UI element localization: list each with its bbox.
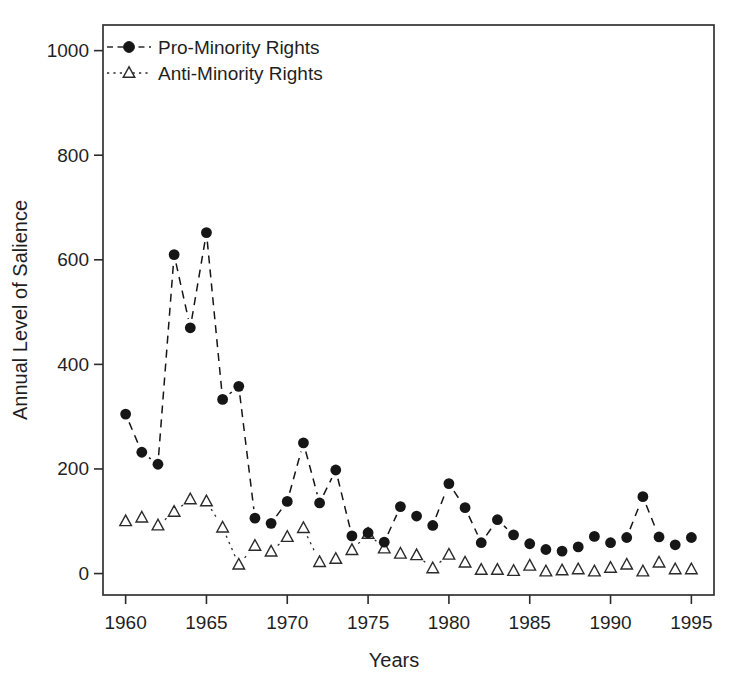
anti-data-point	[637, 565, 649, 576]
anti-data-point	[475, 564, 487, 575]
y-tick-label: 0	[78, 563, 89, 584]
y-tick-label: 400	[57, 354, 89, 375]
pro-data-point	[217, 394, 228, 405]
x-tick-label: 1965	[185, 612, 227, 633]
pro-data-point	[670, 539, 681, 550]
pro-data-point	[379, 537, 390, 548]
pro-data-point	[508, 529, 519, 540]
anti-data-point	[184, 493, 196, 504]
anti-data-point	[540, 565, 552, 576]
pro-series-segment	[436, 492, 446, 517]
anti-data-point	[168, 506, 180, 517]
anti-series-segment	[424, 561, 426, 563]
pro-data-point	[120, 409, 131, 420]
pro-data-point	[201, 227, 212, 238]
anti-data-point	[443, 549, 455, 560]
x-axis-title: Years	[369, 649, 419, 671]
line-chart: 0200400600800100019601965197019751980198…	[0, 0, 734, 692]
pro-series-segment	[207, 242, 221, 391]
anti-data-point	[669, 563, 681, 574]
pro-series-segment	[646, 505, 655, 529]
pro-data-point	[686, 532, 697, 543]
legend-label-anti: Anti-Minority Rights	[158, 63, 323, 84]
anti-data-point	[621, 558, 633, 569]
pro-series-segment	[504, 526, 507, 529]
pro-series-segment	[469, 516, 478, 535]
anti-data-point	[524, 560, 536, 571]
pro-data-point	[314, 498, 325, 509]
pro-data-point	[266, 518, 277, 529]
y-tick-label: 800	[57, 145, 89, 166]
pro-data-point	[637, 491, 648, 502]
pro-data-point	[395, 501, 406, 512]
anti-series-segment	[307, 536, 315, 554]
pro-series-segment	[129, 422, 138, 444]
pro-series-segment	[230, 392, 232, 394]
anti-data-point	[330, 553, 342, 564]
anti-data-point	[152, 519, 164, 530]
legend-open-triangle-icon	[123, 67, 135, 78]
x-tick-label: 1970	[266, 612, 308, 633]
pro-data-point	[282, 496, 293, 507]
pro-data-point	[411, 511, 422, 522]
anti-data-point	[508, 565, 520, 576]
pro-data-point	[444, 478, 455, 489]
x-tick-label: 1990	[589, 612, 631, 633]
pro-data-point	[185, 322, 196, 333]
anti-data-point	[686, 563, 698, 574]
anti-data-point	[395, 547, 407, 558]
series-layer	[120, 227, 697, 576]
pro-series-segment	[454, 491, 460, 500]
anti-data-point	[217, 521, 229, 532]
legend-label-pro: Pro-Minority Rights	[158, 37, 320, 58]
anti-series-segment	[358, 540, 361, 543]
x-tick-label: 1985	[509, 612, 551, 633]
pro-data-point	[330, 465, 341, 476]
anti-series-segment	[181, 505, 183, 507]
anti-data-point	[265, 545, 277, 556]
pro-series-segment	[338, 479, 350, 527]
pro-data-point	[557, 546, 568, 557]
anti-data-point	[556, 564, 568, 575]
pro-series-segment	[176, 263, 188, 319]
anti-series-segment	[278, 543, 281, 546]
pro-data-point	[233, 381, 244, 392]
y-tick-label: 600	[57, 249, 89, 270]
pro-data-point	[621, 532, 632, 543]
legend: Pro-Minority Rights Anti-Minority Rights	[107, 37, 323, 84]
pro-data-point	[492, 514, 503, 525]
pro-data-point	[540, 544, 551, 555]
y-tick-label: 200	[57, 458, 89, 479]
y-axis-title: Annual Level of Salience	[9, 200, 31, 420]
anti-series-segment	[165, 518, 167, 520]
anti-data-point	[589, 565, 601, 576]
x-tick-label: 1975	[347, 612, 389, 633]
pro-data-point	[250, 513, 261, 524]
pro-series-segment	[159, 264, 174, 456]
anti-data-point	[120, 515, 132, 526]
pro-data-point	[524, 538, 535, 549]
pro-series-segment	[240, 395, 254, 509]
pro-data-point	[153, 459, 164, 470]
pro-data-point	[136, 447, 147, 458]
pro-data-point	[347, 531, 358, 542]
pro-series-segment	[290, 452, 301, 493]
pro-data-point	[654, 532, 665, 543]
anti-data-point	[281, 531, 293, 542]
x-tick-label: 1995	[670, 612, 712, 633]
anti-data-point	[249, 540, 261, 551]
legend-filled-circle-icon	[124, 42, 135, 53]
pro-series-segment	[486, 527, 492, 535]
anti-data-point	[492, 564, 504, 575]
pro-series-segment	[388, 515, 397, 534]
salience-figure: 0200400600800100019601965197019751980198…	[0, 0, 734, 692]
anti-data-point	[572, 563, 584, 574]
anti-series-segment	[375, 540, 378, 543]
anti-data-point	[136, 511, 148, 522]
pro-data-point	[460, 502, 471, 513]
pro-data-point	[298, 437, 309, 448]
anti-data-point	[201, 495, 213, 506]
anti-data-point	[459, 556, 471, 567]
plot-border	[103, 25, 714, 595]
pro-series-segment	[630, 505, 640, 529]
